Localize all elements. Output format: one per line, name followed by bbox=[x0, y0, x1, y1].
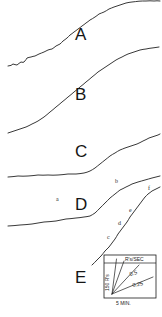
segment-marker-f: f bbox=[148, 185, 150, 191]
segment-marker-c: c bbox=[107, 234, 110, 240]
segment-marker-b: b bbox=[115, 178, 118, 184]
trace-label-B: B bbox=[75, 86, 86, 103]
segment-marker-d: d bbox=[118, 220, 121, 226]
segment-marker-a: a bbox=[56, 196, 59, 202]
inset-x-axis-label: 5 MIN. bbox=[116, 301, 131, 306]
trace-label-E: E bbox=[75, 269, 86, 286]
trace-label-C: C bbox=[75, 143, 87, 160]
trace-label-D: D bbox=[75, 196, 87, 213]
inset-header-label: R's/SEC bbox=[125, 257, 144, 262]
trace-label-A: A bbox=[75, 26, 86, 43]
inset-y-axis-label: 150 R's bbox=[105, 274, 110, 291]
segment-marker-e: e bbox=[129, 207, 132, 213]
